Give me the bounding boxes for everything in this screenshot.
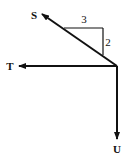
vector-u: U <box>113 66 121 155</box>
vector-t: T <box>6 60 117 72</box>
vector-s: S <box>31 9 117 66</box>
triangle-vertical-label: 2 <box>105 36 111 48</box>
vector-t-label: T <box>6 60 14 72</box>
force-diagram: 3 2 S T U <box>0 0 132 163</box>
vector-s-label: S <box>31 9 37 21</box>
vector-u-label: U <box>113 143 121 155</box>
triangle-horizontal-label: 3 <box>81 13 87 25</box>
